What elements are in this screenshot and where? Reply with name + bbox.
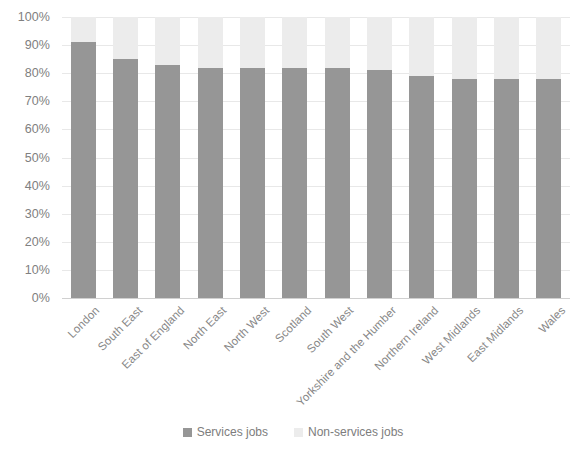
- bar-segment-services-jobs[interactable]: [409, 76, 434, 298]
- bar-segment-services-jobs[interactable]: [536, 79, 561, 298]
- y-axis-tick-label: 10%: [25, 263, 50, 277]
- y-axis-tick-label: 90%: [25, 38, 50, 52]
- y-axis-tick-label: 60%: [25, 122, 50, 136]
- y-axis-tick-label: 0%: [32, 291, 50, 305]
- bar-segment-services-jobs[interactable]: [282, 68, 307, 298]
- bar-group[interactable]: [536, 17, 561, 298]
- bar-segment-services-jobs[interactable]: [367, 70, 392, 298]
- bar-group[interactable]: [155, 17, 180, 298]
- legend-swatch-icon: [294, 428, 303, 437]
- chart-legend: Services jobsNon-services jobs: [0, 425, 586, 439]
- bar-segment-services-jobs[interactable]: [240, 68, 265, 298]
- y-axis-tick-label: 40%: [25, 179, 50, 193]
- bar-segment-non-services-jobs[interactable]: [494, 17, 519, 79]
- plot-area: [62, 17, 570, 298]
- bar-group[interactable]: [282, 17, 307, 298]
- bar-segment-non-services-jobs[interactable]: [282, 17, 307, 68]
- bar-group[interactable]: [325, 17, 350, 298]
- legend-item-label: Non-services jobs: [308, 425, 403, 439]
- bar-segment-services-jobs[interactable]: [155, 65, 180, 298]
- y-axis-tick-label: 50%: [25, 151, 50, 165]
- x-axis-tick-label: North West: [221, 304, 271, 354]
- bar-segment-non-services-jobs[interactable]: [155, 17, 180, 65]
- x-axis: LondonSouth EastEast of EnglandNorth Eas…: [62, 298, 570, 408]
- bar-segment-non-services-jobs[interactable]: [71, 17, 96, 42]
- bar-segment-non-services-jobs[interactable]: [198, 17, 223, 68]
- stacked-bar-chart: 0%10%20%30%40%50%60%70%80%90%100% London…: [0, 0, 586, 459]
- y-axis-tick-label: 70%: [25, 94, 50, 108]
- y-axis-tick-label: 80%: [25, 66, 50, 80]
- bar-group[interactable]: [240, 17, 265, 298]
- bar-segment-services-jobs[interactable]: [71, 42, 96, 298]
- bar-group[interactable]: [452, 17, 477, 298]
- bar-segment-services-jobs[interactable]: [198, 68, 223, 298]
- y-axis: 0%10%20%30%40%50%60%70%80%90%100%: [0, 0, 58, 459]
- bar-segment-non-services-jobs[interactable]: [240, 17, 265, 68]
- legend-item[interactable]: Non-services jobs: [294, 425, 403, 439]
- x-axis-tick-label: Scotland: [273, 304, 314, 345]
- y-axis-tick-label: 30%: [25, 207, 50, 221]
- y-axis-tick-label: 100%: [18, 10, 50, 24]
- bar-segment-services-jobs[interactable]: [494, 79, 519, 298]
- bar-group[interactable]: [198, 17, 223, 298]
- bar-segment-services-jobs[interactable]: [113, 59, 138, 298]
- y-axis-tick-label: 20%: [25, 235, 50, 249]
- bar-segment-services-jobs[interactable]: [325, 68, 350, 298]
- x-axis-tick-label: Wales: [536, 304, 567, 335]
- bar-segment-services-jobs[interactable]: [452, 79, 477, 298]
- bar-segment-non-services-jobs[interactable]: [325, 17, 350, 68]
- bar-segment-non-services-jobs[interactable]: [113, 17, 138, 59]
- bar-group[interactable]: [113, 17, 138, 298]
- bar-segment-non-services-jobs[interactable]: [536, 17, 561, 79]
- bar-segment-non-services-jobs[interactable]: [367, 17, 392, 70]
- legend-item-label: Services jobs: [197, 425, 268, 439]
- bar-segment-non-services-jobs[interactable]: [409, 17, 434, 76]
- bars-layer: [62, 17, 570, 298]
- x-axis-tick-label: London: [66, 304, 102, 340]
- bar-group[interactable]: [494, 17, 519, 298]
- bar-segment-non-services-jobs[interactable]: [452, 17, 477, 79]
- legend-item[interactable]: Services jobs: [183, 425, 268, 439]
- bar-group[interactable]: [409, 17, 434, 298]
- bar-group[interactable]: [71, 17, 96, 298]
- legend-swatch-icon: [183, 428, 192, 437]
- bar-group[interactable]: [367, 17, 392, 298]
